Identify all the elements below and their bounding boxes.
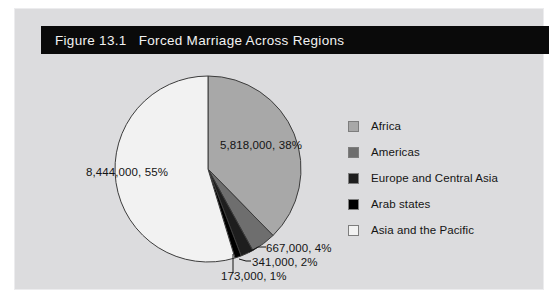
- data-label-europe-central-asia: 341,000, 2%: [252, 256, 318, 268]
- page-title: Figure 13.1 Forced Marriage Across Regio…: [41, 33, 344, 48]
- data-label-africa: 5,818,000, 38%: [220, 139, 302, 151]
- legend-swatch-icon: [348, 173, 359, 184]
- legend-swatch-icon: [348, 199, 359, 210]
- chart-plot-area: 5,818,000, 38% 8,444,000, 55% 667,000, 4…: [30, 55, 558, 298]
- figure-title-banner: Figure 13.1 Forced Marriage Across Regio…: [41, 26, 549, 54]
- legend-item-label: Arab states: [371, 198, 430, 210]
- legend-item-europe-central-asia[interactable]: Europe and Central Asia: [348, 165, 548, 191]
- data-label-americas: 667,000, 4%: [266, 242, 332, 254]
- figure-root: Figure 13.1 Forced Marriage Across Regio…: [0, 0, 558, 306]
- legend-item-label: Americas: [371, 146, 420, 158]
- legend-item-africa[interactable]: Africa: [348, 113, 548, 139]
- legend-item-label: Asia and the Pacific: [371, 224, 474, 236]
- leader-line-europe: [239, 259, 251, 261]
- legend-item-americas[interactable]: Americas: [348, 139, 548, 165]
- legend-swatch-icon: [348, 147, 359, 158]
- legend-item-arab-states[interactable]: Arab states: [348, 191, 548, 217]
- legend-item-label: Africa: [371, 120, 401, 132]
- chart-legend: Africa Americas Europe and Central Asia …: [348, 113, 548, 243]
- data-label-arab-states: 173,000, 1%: [221, 270, 287, 282]
- figure-frame: Figure 13.1 Forced Marriage Across Regio…: [14, 8, 544, 290]
- legend-item-asia-pacific[interactable]: Asia and the Pacific: [348, 217, 548, 243]
- legend-swatch-icon: [348, 225, 359, 236]
- legend-swatch-icon: [348, 121, 359, 132]
- legend-item-label: Europe and Central Asia: [371, 172, 498, 184]
- data-label-asia-pacific: 8,444,000, 55%: [86, 166, 168, 178]
